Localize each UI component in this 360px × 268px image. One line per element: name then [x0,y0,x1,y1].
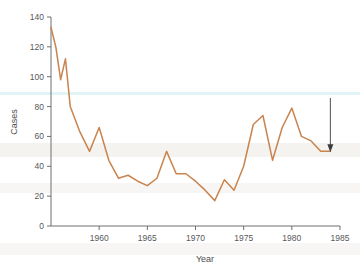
x-axis-title: Year [196,254,214,264]
y-axis-ticks [47,17,51,226]
y-tick-label: 40 [35,161,45,171]
x-axis-ticks [99,226,340,230]
y-tick-label: 80 [35,102,45,112]
chart-canvas: 020406080100120140 196019651970197519801… [0,0,360,268]
annotation-37-cases [327,98,333,152]
x-tick-label: 1975 [234,233,253,243]
x-tick-label: 1960 [90,233,109,243]
x-tick-label: 1965 [138,233,157,243]
y-tick-label: 140 [30,12,44,22]
y-axis-tick-labels: 020406080100120140 [30,12,44,231]
y-tick-label: 100 [30,72,44,82]
data-series-line [51,27,330,200]
y-tick-label: 20 [35,191,45,201]
x-axis-tick-labels: 196019651970197519801985 [90,233,350,243]
y-tick-label: 60 [35,131,45,141]
line-chart: 020406080100120140 196019651970197519801… [0,0,360,268]
y-tick-label: 0 [39,221,44,231]
x-tick-label: 1980 [282,233,301,243]
y-tick-label: 120 [30,42,44,52]
x-tick-label: 1970 [186,233,205,243]
x-tick-label: 1985 [331,233,350,243]
y-axis-title: Cases [9,109,19,135]
